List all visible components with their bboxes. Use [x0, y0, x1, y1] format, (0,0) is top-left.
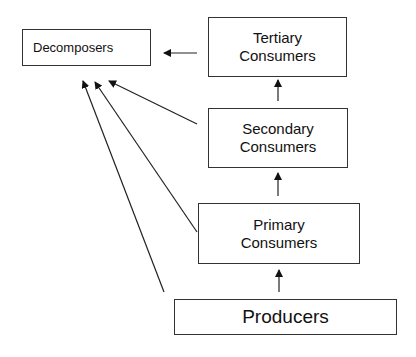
tertiary-line2: Consumers: [239, 47, 316, 65]
arrow-primary-to-decomposers: [95, 82, 197, 232]
secondary-line2: Consumers: [240, 138, 317, 156]
primary-line1: Primary: [253, 216, 305, 234]
secondary-line1: Secondary: [242, 120, 314, 138]
producers-node: Producers: [174, 299, 397, 335]
primary-line2: Consumers: [241, 234, 318, 252]
decomposers-node: Decomposers: [22, 29, 151, 66]
primary-consumers-node: Primary Consumers: [198, 203, 360, 264]
tertiary-line1: Tertiary: [253, 29, 302, 47]
arrow-producers-to-decomposers: [83, 81, 164, 292]
decomposers-label: Decomposers: [33, 40, 113, 56]
secondary-consumers-node: Secondary Consumers: [208, 108, 348, 168]
tertiary-consumers-node: Tertiary Consumers: [208, 17, 347, 77]
arrow-secondary-to-decomposers: [109, 81, 197, 124]
producers-label: Producers: [242, 306, 329, 329]
